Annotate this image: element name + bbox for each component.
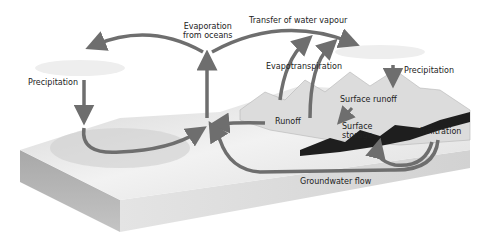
label-evapotranspiration: Evapotranspiration <box>266 62 342 71</box>
label-surface-storage: Surface storage <box>342 122 372 140</box>
label-transfer-of-water-vapour: Transfer of water vapour <box>249 16 347 25</box>
label-groundwater-flow: Groundwater flow <box>300 177 371 186</box>
cloud-right <box>335 45 425 59</box>
label-evaporation-from-oceans: Evaporation from oceans <box>183 22 233 40</box>
label-runoff: Runoff <box>275 117 301 126</box>
label-surface-runoff: Surface runoff <box>340 95 397 104</box>
diagram-illustration <box>0 0 481 247</box>
label-line: Evaporation <box>183 22 233 31</box>
water-cycle-diagram: Evaporation from oceans Transfer of wate… <box>0 0 481 247</box>
label-line: Surface <box>342 122 372 131</box>
label-line: from oceans <box>183 31 233 40</box>
label-infiltration: Infiltration <box>420 127 461 136</box>
cloud-left <box>35 60 125 76</box>
arrow-runoff <box>219 123 265 124</box>
ocean-basin <box>50 128 190 168</box>
label-line: storage <box>342 131 372 140</box>
label-precipitation-right: Precipitation <box>404 66 454 75</box>
label-precipitation-left: Precipitation <box>28 78 78 87</box>
